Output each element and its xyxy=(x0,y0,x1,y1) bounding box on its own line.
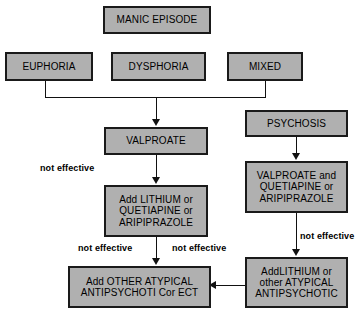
node-euphoria-label: EUPHORIA xyxy=(9,61,89,72)
connector-psychosis-to-valproate-quetiapine xyxy=(296,137,297,154)
arrow-add-lithium-to-other-atypical xyxy=(152,258,160,265)
node-manic-episode-label: MANIC EPISODE xyxy=(107,14,207,25)
node-dysphoria-label: DYSPHORIA xyxy=(115,61,202,72)
node-add-lithium-right-line3: ANTIPSYCHOTIC xyxy=(249,288,344,299)
arrow-valproate-quetiapine-to-add-lithium-right xyxy=(292,249,300,256)
connector-bus-to-valproate xyxy=(156,97,157,120)
arrow-bus-to-valproate xyxy=(152,119,160,126)
node-other-atypical-line1: Add OTHER ATYPICAL xyxy=(72,276,207,287)
node-add-lithium-center-line2: QUETIAPINE or xyxy=(108,205,204,216)
node-add-lithium-right-line2: other ATYPICAL xyxy=(249,277,344,288)
label-center-left-not-effective: not effective xyxy=(78,243,132,253)
connector-mixed-stub xyxy=(265,81,266,97)
label-valproate-not-effective: not effective xyxy=(40,163,94,173)
node-add-lithium-center-line3: ARIPIPRAZOLE xyxy=(108,217,204,228)
node-add-lithium-center-line1: Add LITHIUM or xyxy=(108,194,204,205)
node-valproate: VALPROATE xyxy=(104,127,208,155)
node-manic-episode: MANIC EPISODE xyxy=(103,6,211,34)
node-valproate-quetiapine-line3: ARIPIPRAZOLE xyxy=(249,193,344,204)
connector-add-lithium-right-to-other-atypical xyxy=(216,285,246,286)
node-add-lithium-center: Add LITHIUM or QUETIAPINE or ARIPIPRAZOL… xyxy=(104,185,208,237)
node-mixed: MIXED xyxy=(227,52,303,81)
node-other-atypical-line2: ANTIPSYCHOTI Cor ECT xyxy=(72,287,207,298)
node-psychosis: PSYCHOSIS xyxy=(245,110,348,137)
arrow-valproate-to-add-lithium xyxy=(152,177,160,184)
node-valproate-quetiapine-line1: VALPROATE and xyxy=(249,170,344,181)
node-valproate-quetiapine-line2: QUETIAPINE or xyxy=(249,181,344,192)
node-other-atypical: Add OTHER ATYPICAL ANTIPSYCHOTI Cor ECT xyxy=(68,266,211,308)
flowchart-canvas: MANIC EPISODE EUPHORIA DYSPHORIA MIXED V… xyxy=(0,0,364,313)
connector-euphoria-stub xyxy=(45,81,46,97)
node-valproate-quetiapine: VALPROATE and QUETIAPINE or ARIPIPRAZOLE xyxy=(245,161,348,213)
node-dysphoria: DYSPHORIA xyxy=(111,52,206,81)
node-psychosis-label: PSYCHOSIS xyxy=(249,118,344,129)
connector-valproate-to-add-lithium xyxy=(156,155,157,178)
node-add-lithium-right-line1: AddLITHIUM or xyxy=(249,266,344,277)
connector-add-lithium-to-other-atypical xyxy=(156,237,157,259)
label-center-right-not-effective: not effective xyxy=(172,243,226,253)
node-valproate-label: VALPROATE xyxy=(108,135,204,146)
node-add-lithium-right: AddLITHIUM or other ATYPICAL ANTIPSYCHOT… xyxy=(245,257,348,308)
node-mixed-label: MIXED xyxy=(231,61,299,72)
arrow-psychosis-to-valproate-quetiapine xyxy=(292,153,300,160)
label-right-not-effective: not effective xyxy=(300,231,354,241)
node-euphoria: EUPHORIA xyxy=(5,52,93,81)
connector-valproate-quetiapine-to-add-lithium-right xyxy=(296,213,297,250)
